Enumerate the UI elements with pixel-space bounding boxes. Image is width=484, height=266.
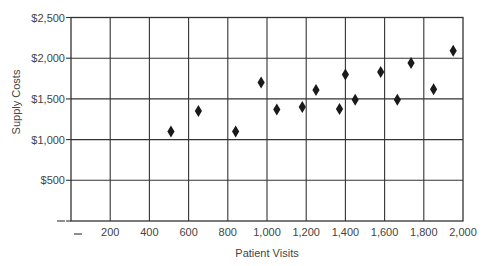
diamond-marker <box>342 68 349 80</box>
x-tick-label: 2,000 <box>449 226 477 238</box>
y-axis-title: Supply Costs <box>10 69 22 134</box>
x-tick-label: 1,000 <box>253 226 281 238</box>
diamond-marker <box>258 77 265 89</box>
x-axis-tick-labels: 2004006008001,0001,2001,4001,6001,8002,0… <box>74 226 477 238</box>
diamond-marker <box>195 105 202 117</box>
y-tick-label: $500 <box>41 174 65 186</box>
x-tick-label: 600 <box>179 226 197 238</box>
diamond-marker <box>407 57 414 69</box>
diamond-marker <box>336 103 343 115</box>
x-tick-label: 800 <box>219 226 237 238</box>
diamond-marker <box>394 94 401 106</box>
diamond-marker <box>430 83 437 95</box>
diamond-marker <box>312 84 319 96</box>
x-tick-label: 200 <box>101 226 119 238</box>
diamond-marker <box>299 101 306 113</box>
x-tick-label: 1,600 <box>371 226 399 238</box>
y-axis-tick-labels: $500$1,000$1,500$2,000$2,500 <box>31 12 71 222</box>
diamond-marker <box>352 94 359 106</box>
vertical-gridlines <box>110 18 424 222</box>
x-tick-label: 1,800 <box>410 226 438 238</box>
y-tick-label: $2,000 <box>31 52 65 64</box>
diamond-marker <box>273 103 280 115</box>
y-tick-label: $1,000 <box>31 134 65 146</box>
x-axis-title: Patient Visits <box>235 247 299 259</box>
diamond-marker <box>377 66 384 78</box>
x-tick-label: 1,200 <box>292 226 320 238</box>
x-tick-label: 400 <box>140 226 158 238</box>
y-tick-label: $2,500 <box>31 12 65 24</box>
scatter-chart: $500$1,000$1,500$2,000$2,500 20040060080… <box>0 0 484 266</box>
y-tick-label: $1,500 <box>31 93 65 105</box>
diamond-marker <box>450 45 457 57</box>
diamond-marker <box>167 125 174 137</box>
diamond-marker <box>232 125 239 137</box>
x-tick-label: 1,400 <box>332 226 360 238</box>
data-points <box>167 45 456 138</box>
